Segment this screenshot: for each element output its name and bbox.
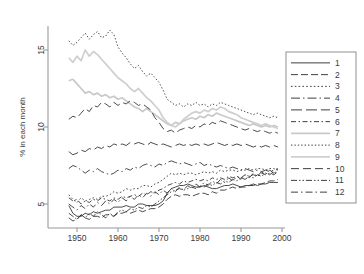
series-line-10 [69, 101, 278, 133]
legend-label-11[interactable]: 11 [335, 175, 344, 185]
legend-label-4[interactable]: 4 [335, 93, 340, 103]
legend-label-8[interactable]: 8 [335, 140, 340, 150]
x-tick-label: 1990 [232, 233, 251, 243]
x-tick-label: 1950 [68, 233, 87, 243]
y-tick-label: 10 [36, 122, 46, 132]
y-tick-label: 5 [36, 201, 46, 206]
series-layer [69, 30, 278, 221]
legend-label-5[interactable]: 5 [335, 105, 340, 115]
chart-figure: 51015% in each month19501960197019801990… [0, 0, 364, 274]
y-tick-label: 15 [36, 45, 46, 55]
legend-label-1[interactable]: 1 [335, 58, 340, 68]
legend-label-6[interactable]: 6 [335, 117, 340, 127]
legend-label-12[interactable]: 12 [335, 187, 345, 197]
legend-label-10[interactable]: 10 [335, 164, 345, 174]
series-line-9 [69, 50, 278, 129]
x-tick-label: 1970 [150, 233, 169, 243]
x-tick-label: 1960 [109, 233, 128, 243]
series-line-12 [69, 169, 278, 211]
y-axis-title: % in each month [18, 97, 27, 157]
series-line-5 [69, 142, 278, 154]
x-tick-label: 1980 [191, 233, 210, 243]
legend-label-9[interactable]: 9 [335, 152, 340, 162]
x-tick-label: 2000 [273, 233, 292, 243]
legend-label-7[interactable]: 7 [335, 128, 340, 138]
legend-label-2[interactable]: 2 [335, 70, 340, 80]
legend-layer: 123456789101112 [286, 52, 356, 203]
series-line-4 [69, 161, 278, 175]
chart-canvas: 51015% in each month19501960197019801990… [0, 0, 364, 274]
axis-layer: 51015% in each month19501960197019801990… [18, 26, 292, 243]
legend-label-3[interactable]: 3 [335, 81, 340, 91]
